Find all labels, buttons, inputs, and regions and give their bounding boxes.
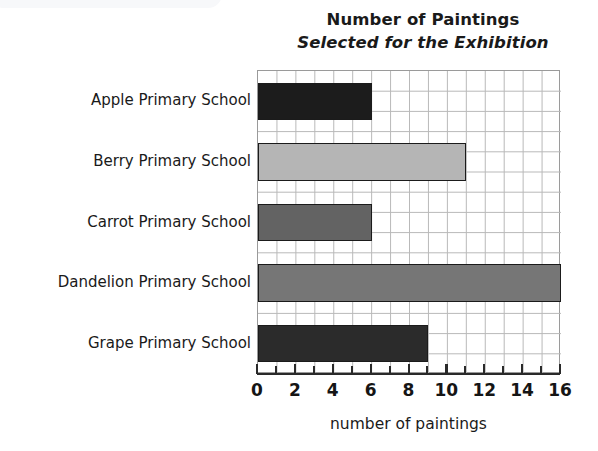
x-tick-11 (464, 366, 466, 374)
x-tick-3 (313, 366, 315, 374)
x-tick-10 (445, 364, 447, 374)
category-label-dandelion-primary-school: Dandelion Primary School (0, 273, 251, 291)
category-label-berry-primary-school: Berry Primary School (0, 152, 251, 170)
x-tick-label-14: 14 (502, 380, 542, 400)
chart-title-line-1: Number of Paintings (258, 8, 588, 31)
category-label-apple-primary-school: Apple Primary School (0, 91, 251, 109)
bar-grape-primary-school (258, 325, 428, 363)
x-tick-label-0: 0 (237, 380, 277, 400)
category-label-grape-primary-school: Grape Primary School (0, 334, 251, 352)
x-tick-label-8: 8 (389, 380, 429, 400)
chart-canvas: Number of Paintings Selected for the Exh… (0, 0, 598, 451)
x-tick-label-12: 12 (464, 380, 504, 400)
chart-title: Number of Paintings Selected for the Exh… (258, 8, 588, 54)
x-tick-15 (540, 366, 542, 374)
x-tick-1 (275, 366, 277, 374)
x-tick-label-2: 2 (275, 380, 315, 400)
x-tick-16 (559, 364, 561, 374)
bar-apple-primary-school (258, 83, 372, 121)
x-tick-label-4: 4 (313, 380, 353, 400)
x-tick-4 (332, 364, 334, 374)
x-tick-label-16: 16 (540, 380, 580, 400)
x-tick-12 (483, 364, 485, 374)
category-label-carrot-primary-school: Carrot Primary School (0, 213, 251, 231)
bars-layer (258, 71, 561, 374)
x-tick-5 (351, 366, 353, 374)
x-tick-14 (521, 364, 523, 374)
x-axis-title: number of paintings (257, 415, 560, 433)
bar-carrot-primary-school (258, 204, 372, 242)
x-tick-13 (502, 366, 504, 374)
category-axis-labels: Apple Primary SchoolBerry Primary School… (0, 70, 251, 373)
x-tick-label-6: 6 (351, 380, 391, 400)
bar-dandelion-primary-school (258, 264, 561, 302)
plot-area (257, 70, 560, 373)
x-tick-0 (256, 364, 258, 374)
x-tick-label-10: 10 (426, 380, 466, 400)
x-tick-2 (294, 364, 296, 374)
x-tick-6 (370, 364, 372, 374)
x-tick-7 (389, 366, 391, 374)
chart-title-line-2: Selected for the Exhibition (258, 31, 588, 54)
bar-berry-primary-school (258, 143, 466, 181)
x-tick-8 (408, 364, 410, 374)
top-banner-artifact (0, 0, 222, 8)
x-tick-9 (426, 366, 428, 374)
